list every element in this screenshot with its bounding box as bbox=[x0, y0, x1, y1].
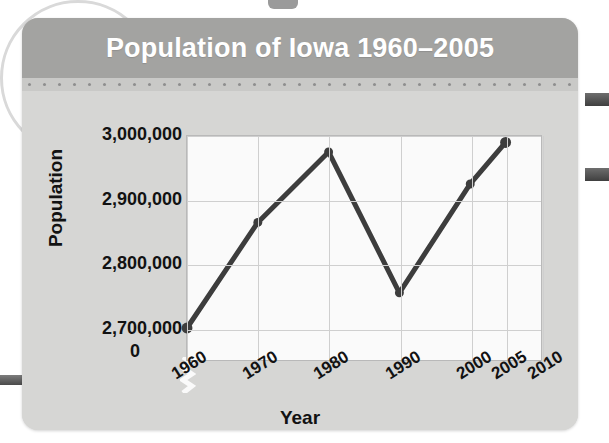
dot bbox=[118, 83, 121, 86]
dot bbox=[433, 83, 436, 86]
dot bbox=[88, 83, 91, 86]
card-header: Population of Iowa 1960–2005 bbox=[22, 18, 578, 78]
dot bbox=[28, 83, 31, 86]
page-artifact-top bbox=[268, 0, 298, 9]
dot bbox=[298, 83, 301, 86]
population-line-series bbox=[187, 136, 541, 360]
y-axis-tick-labels: 3,000,0002,900,0002,800,0002,700,000 bbox=[42, 91, 182, 430]
y-axis-tick-label: 2,800,000 bbox=[102, 253, 182, 274]
y-axis-tick-label: 3,000,000 bbox=[102, 124, 182, 145]
dot bbox=[463, 83, 466, 86]
gridline-vertical bbox=[472, 136, 473, 360]
page-artifact-right-bar-2 bbox=[585, 168, 609, 181]
dot bbox=[328, 83, 331, 86]
chart-card: Population of Iowa 1960–2005 Population … bbox=[22, 18, 578, 430]
decorative-dot-rail bbox=[22, 78, 578, 91]
gridline-horizontal bbox=[187, 136, 541, 137]
gridline-vertical bbox=[507, 136, 508, 360]
data-point-marker bbox=[466, 180, 475, 189]
dot bbox=[403, 83, 406, 86]
dot bbox=[478, 83, 481, 86]
dot bbox=[568, 83, 571, 86]
x-axis-title: Year bbox=[22, 407, 578, 429]
dot bbox=[193, 83, 196, 86]
gridline-vertical bbox=[543, 136, 544, 360]
dot bbox=[388, 83, 391, 86]
gridline-vertical bbox=[187, 136, 188, 360]
dot bbox=[358, 83, 361, 86]
dot bbox=[253, 83, 256, 86]
dot bbox=[163, 83, 166, 86]
dot bbox=[43, 83, 46, 86]
gridline-vertical bbox=[401, 136, 402, 360]
y-axis-tick-label: 2,700,000 bbox=[102, 318, 182, 339]
plot-area bbox=[186, 135, 542, 361]
page-artifact-right-bar-1 bbox=[585, 93, 609, 106]
dot bbox=[148, 83, 151, 86]
data-point-marker bbox=[395, 288, 404, 297]
gridline-horizontal bbox=[187, 201, 541, 202]
card-body: Population 3,000,0002,900,0002,800,0002,… bbox=[22, 91, 578, 430]
gridline-horizontal bbox=[187, 265, 541, 266]
dot bbox=[73, 83, 76, 86]
gridline-vertical bbox=[258, 136, 259, 360]
series-line bbox=[187, 142, 506, 328]
dot bbox=[283, 83, 286, 86]
dot bbox=[553, 83, 556, 86]
chart-area: Population 3,000,0002,900,0002,800,0002,… bbox=[22, 91, 578, 430]
dot bbox=[523, 83, 526, 86]
dot bbox=[268, 83, 271, 86]
y-axis-tick-label: 2,900,000 bbox=[102, 189, 182, 210]
dot bbox=[313, 83, 316, 86]
dot bbox=[133, 83, 136, 86]
dot bbox=[103, 83, 106, 86]
dot bbox=[343, 83, 346, 86]
dot bbox=[238, 83, 241, 86]
dot bbox=[418, 83, 421, 86]
y-axis-origin-label: 0 bbox=[130, 341, 140, 362]
dot bbox=[538, 83, 541, 86]
gridline-vertical bbox=[329, 136, 330, 360]
dot bbox=[448, 83, 451, 86]
data-point-marker bbox=[500, 137, 511, 148]
dot bbox=[58, 83, 61, 86]
dot bbox=[493, 83, 496, 86]
chart-title: Population of Iowa 1960–2005 bbox=[106, 33, 494, 64]
dot bbox=[178, 83, 181, 86]
dot bbox=[208, 83, 211, 86]
dot bbox=[373, 83, 376, 86]
gridline-horizontal bbox=[187, 330, 541, 331]
dot bbox=[508, 83, 511, 86]
dot bbox=[223, 83, 226, 86]
